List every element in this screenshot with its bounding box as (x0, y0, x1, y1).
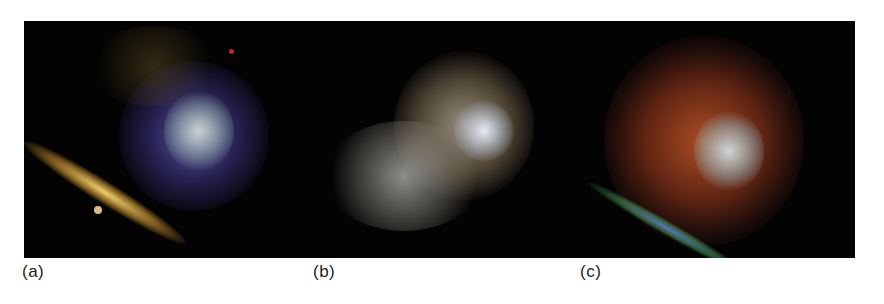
panel-label-c: (c) (580, 262, 601, 282)
panel-label-b: (b) (313, 262, 335, 282)
panel-b-image (304, 21, 584, 258)
panel-a-image (24, 21, 304, 258)
panel-c-image (584, 21, 855, 258)
panel-label-a: (a) (22, 262, 44, 282)
image-strip (24, 21, 855, 258)
